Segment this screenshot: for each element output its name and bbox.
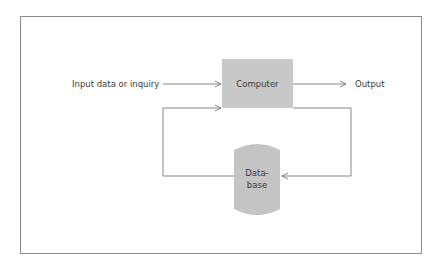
- input-label: Input data or inquiry: [72, 79, 159, 89]
- database-label-line2: base: [247, 180, 267, 190]
- output-arrow: [293, 81, 346, 87]
- database-label-line1: Data-: [245, 168, 268, 178]
- computer-to-database-arrow: [282, 108, 351, 179]
- database-to-computer-arrow: [163, 105, 234, 176]
- computer-label: Computer: [236, 79, 279, 89]
- input-arrow: [163, 81, 221, 87]
- flow-diagram: Computer Data- base Input data or inquir…: [0, 0, 440, 268]
- output-label: Output: [355, 79, 385, 89]
